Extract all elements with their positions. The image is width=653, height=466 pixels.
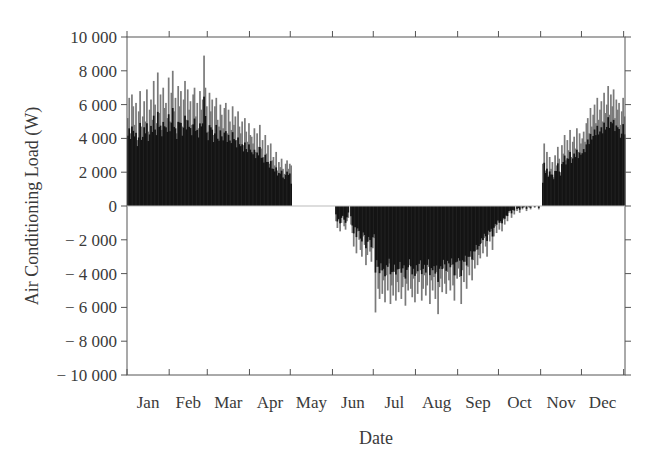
x-tick-label-jan: Jan	[137, 393, 160, 412]
x-tick-label-mar: Mar	[214, 393, 243, 412]
x-tick-label-dec: Dec	[589, 393, 617, 412]
y-tick-label: 2 000	[79, 163, 117, 182]
y-tick-label: − 8 000	[65, 332, 117, 351]
day-bar-core	[347, 206, 349, 213]
y-tick-label: 4 000	[79, 129, 117, 148]
x-axis-title: Date	[359, 428, 393, 448]
daily-load-bars	[127, 56, 625, 315]
y-tick-label: 10 000	[70, 28, 117, 47]
air-conditioning-load-chart: 10 0008 0006 0004 0002 0000− 2 000− 4 00…	[0, 0, 653, 466]
day-bar-core	[290, 184, 292, 206]
y-tick-label: − 4 000	[65, 265, 117, 284]
x-tick-label-oct: Oct	[507, 393, 532, 412]
y-tick-label: − 10 000	[56, 366, 117, 385]
y-tick-label: 6 000	[79, 96, 117, 115]
x-tick-label-sep: Sep	[465, 393, 491, 412]
x-tick-label-apr: Apr	[257, 393, 284, 412]
y-tick-label: 0	[109, 197, 118, 216]
x-tick-label-feb: Feb	[175, 393, 201, 412]
x-tick-label-nov: Nov	[546, 393, 576, 412]
day-bar-core	[519, 206, 521, 210]
y-tick-label: − 2 000	[65, 231, 117, 250]
x-tick-label-aug: Aug	[422, 393, 452, 412]
x-tick-label-may: May	[296, 393, 328, 412]
x-tick-label-jul: Jul	[384, 393, 404, 412]
y-axis-title: Air Conditioning Load (W)	[22, 107, 43, 305]
y-tick-label: − 6 000	[65, 298, 117, 317]
day-bar-core	[513, 206, 515, 211]
y-tick-label: 8 000	[79, 62, 117, 81]
plot-frame	[127, 37, 625, 375]
x-tick-label-jun: Jun	[341, 393, 365, 412]
